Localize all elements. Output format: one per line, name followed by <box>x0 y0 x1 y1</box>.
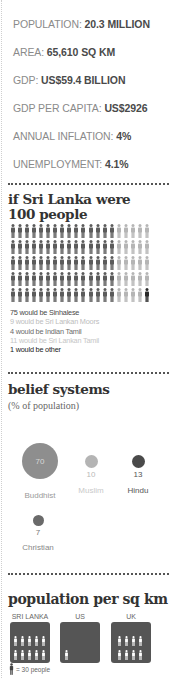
density-key: = 30 people <box>9 663 50 675</box>
person-icon <box>20 650 25 660</box>
person-figure <box>27 646 32 656</box>
person-figure <box>108 224 115 238</box>
belief-subtitle: (% of population) <box>8 400 79 411</box>
person-icon <box>88 256 94 270</box>
person-figure <box>23 224 30 238</box>
person-figure <box>16 240 23 254</box>
person-figure <box>37 272 44 286</box>
person-figure <box>73 272 80 286</box>
person-icon <box>10 288 16 302</box>
person-figure <box>94 256 101 270</box>
person-icon <box>137 224 143 238</box>
person-icon <box>17 256 23 270</box>
person-figure <box>37 224 44 238</box>
person-figure <box>44 256 51 270</box>
person-figure <box>130 224 137 238</box>
person-icon <box>24 224 30 238</box>
person-icon <box>130 240 136 254</box>
people-pictogram <box>9 224 157 304</box>
person-figure <box>123 256 130 270</box>
person-figure <box>52 272 59 286</box>
person-figure <box>94 288 101 302</box>
person-icon <box>144 224 150 238</box>
person-figure <box>101 272 108 286</box>
person-icon <box>52 272 58 286</box>
legend-sri-lankan-tamil: 11 would be Sri Lankan Tamil <box>10 336 99 345</box>
person-icon <box>130 256 136 270</box>
person-icon <box>88 272 94 286</box>
person-figure <box>117 632 122 642</box>
person-icon <box>73 224 79 238</box>
bubble-circle <box>33 515 44 526</box>
person-icon <box>73 256 79 270</box>
person-icon <box>38 272 44 286</box>
person-icon <box>88 288 94 302</box>
person-icon <box>52 240 58 254</box>
person-icon <box>52 224 58 238</box>
person-icon <box>80 272 86 286</box>
person-figure <box>101 256 108 270</box>
person-icon <box>73 272 79 286</box>
person-figure <box>13 646 18 656</box>
person-icon <box>138 636 143 646</box>
person-figure <box>30 288 37 302</box>
person-icon <box>17 288 23 302</box>
person-figure <box>66 240 73 254</box>
person-figure <box>34 632 39 642</box>
person-figure <box>16 224 23 238</box>
person-figure <box>123 272 130 286</box>
divider <box>8 573 169 575</box>
person-figure <box>108 288 115 302</box>
person-icon <box>80 224 86 238</box>
person-figure <box>66 272 73 286</box>
person-figure <box>124 632 129 642</box>
person-figure <box>137 288 144 302</box>
person-figure <box>123 288 130 302</box>
person-figure <box>115 288 122 302</box>
person-icon <box>95 240 101 254</box>
person-icon <box>34 636 39 646</box>
person-icon <box>31 256 37 270</box>
fact-gdp-per-capita: GDP PER CAPITA: US$2926 <box>13 101 167 129</box>
person-icon <box>45 272 51 286</box>
person-icon <box>41 636 46 646</box>
person-icon <box>102 288 108 302</box>
person-figure <box>59 224 66 238</box>
person-figure <box>87 224 94 238</box>
key-facts: POPULATION: 20.3 MILLION AREA: 65,610 SQ… <box>13 17 167 185</box>
person-figure <box>9 288 16 302</box>
person-icon <box>116 288 122 302</box>
person-icon <box>41 650 46 660</box>
person-icon <box>38 288 44 302</box>
person-icon <box>144 272 150 286</box>
person-figure <box>23 288 30 302</box>
person-figure <box>80 288 87 302</box>
person-figure <box>44 224 51 238</box>
legend-sinhalese: 75 would be Sinhalese <box>10 308 99 317</box>
person-icon <box>130 224 136 238</box>
person-icon <box>24 272 30 286</box>
legend-other: 1 would be other <box>10 345 99 354</box>
person-figure <box>101 288 108 302</box>
person-figure <box>131 646 136 656</box>
person-icon <box>124 650 129 660</box>
person-icon <box>24 256 30 270</box>
person-icon <box>130 272 136 286</box>
person-figure <box>101 240 108 254</box>
density-box-sri-lanka <box>10 622 50 663</box>
person-figure <box>80 240 87 254</box>
person-icon <box>10 256 16 270</box>
person-figure <box>37 288 44 302</box>
person-figure <box>137 272 144 286</box>
person-icon <box>66 272 72 286</box>
person-icon <box>59 272 65 286</box>
person-figure <box>108 272 115 286</box>
person-icon <box>73 288 79 302</box>
person-icon <box>66 240 72 254</box>
person-figure <box>130 288 137 302</box>
left-dotted-rule <box>1 0 2 678</box>
person-figure <box>30 256 37 270</box>
person-icon <box>123 288 129 302</box>
person-icon <box>123 272 129 286</box>
person-figure <box>131 632 136 642</box>
